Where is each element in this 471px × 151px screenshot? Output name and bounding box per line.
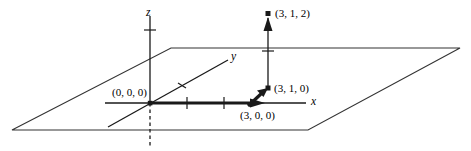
coordinate-system-figure: z y x (0, 0, 0) (3, 0, 0) (3, 1, 0) (3, …	[0, 0, 471, 151]
point-310-label: (3, 1, 0)	[274, 83, 309, 94]
origin-label: (0, 0, 0)	[112, 87, 147, 98]
point-marker-312	[266, 11, 271, 16]
point-marker-origin	[148, 101, 153, 106]
figure-canvas	[0, 0, 471, 151]
point-312-label: (3, 1, 2)	[275, 8, 310, 19]
y-axis-label: y	[231, 51, 236, 63]
x-axis-label: x	[311, 96, 316, 108]
vector-312-arrowhead	[264, 17, 273, 31]
point-300-label: (3, 0, 0)	[240, 110, 275, 121]
z-axis-label: z	[146, 7, 150, 19]
